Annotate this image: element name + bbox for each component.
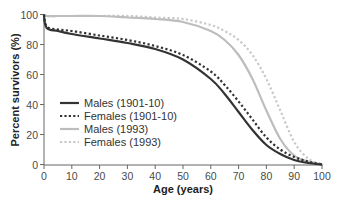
- x-axis-ticks: 0102030405060708090100: [41, 165, 331, 182]
- survival-chart: Percent survivors (%) 020406080100 01020…: [0, 0, 338, 204]
- x-tick-label: 40: [149, 170, 161, 182]
- x-tick-label: 80: [261, 170, 273, 182]
- x-tick-label: 60: [205, 170, 217, 182]
- y-axis-ticks: 020406080100: [20, 9, 44, 171]
- x-tick-label: 20: [94, 170, 106, 182]
- x-axis-title: Age (years): [153, 183, 213, 195]
- y-axis-title: Percent survivors (%): [9, 33, 21, 146]
- legend-label: Females (1993): [84, 136, 161, 148]
- y-tick-label: 80: [26, 39, 38, 51]
- x-tick-label: 90: [288, 170, 300, 182]
- x-tick-label: 0: [41, 170, 47, 182]
- x-tick-label: 10: [66, 170, 78, 182]
- y-tick-label: 60: [26, 69, 38, 81]
- legend-label: Males (1901-10): [84, 97, 164, 109]
- legend-label: Females (1901-10): [84, 110, 177, 122]
- y-tick-label: 100: [20, 9, 38, 21]
- x-tick-label: 30: [122, 170, 134, 182]
- x-tick-label: 100: [313, 170, 331, 182]
- x-tick-label: 70: [233, 170, 245, 182]
- y-tick-label: 0: [32, 159, 38, 171]
- legend: Males (1901-10) Females (1901-10) Males …: [60, 97, 177, 148]
- x-tick-label: 50: [177, 170, 189, 182]
- y-tick-label: 40: [26, 99, 38, 111]
- legend-label: Males (1993): [84, 123, 148, 135]
- y-tick-label: 20: [26, 129, 38, 141]
